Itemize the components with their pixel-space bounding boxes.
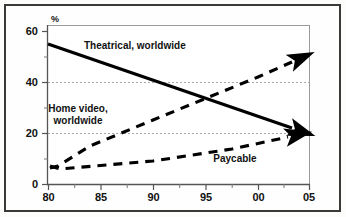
y-tick-label-0: 0	[32, 178, 38, 190]
x-tick-label-80: 80	[42, 191, 54, 203]
series-label-theatrical: Theatrical, worldwide	[84, 40, 186, 51]
series-label-paycable: Paycable	[213, 153, 257, 164]
chart-screenshot: % 60 40 20 0 80 85 90 95 00 05 Theatrica…	[0, 0, 346, 217]
series-label-home-video-line1: Home video,	[48, 103, 108, 114]
x-tick-label-85: 85	[95, 191, 107, 203]
y-tick-label-40: 40	[26, 76, 38, 88]
y-tick-label-20: 20	[26, 127, 38, 139]
x-tick-label-95: 95	[200, 191, 212, 203]
media-revenue-share-chart: % 60 40 20 0 80 85 90 95 00 05 Theatrica…	[0, 0, 346, 217]
y-tick-label-60: 60	[26, 25, 38, 37]
series-label-home-video-line2: worldwide	[53, 115, 103, 126]
x-tick-label-90: 90	[147, 191, 159, 203]
y-axis-unit-label: %	[51, 14, 59, 24]
x-tick-label-05: 05	[303, 191, 315, 203]
x-tick-label-00: 00	[252, 191, 264, 203]
